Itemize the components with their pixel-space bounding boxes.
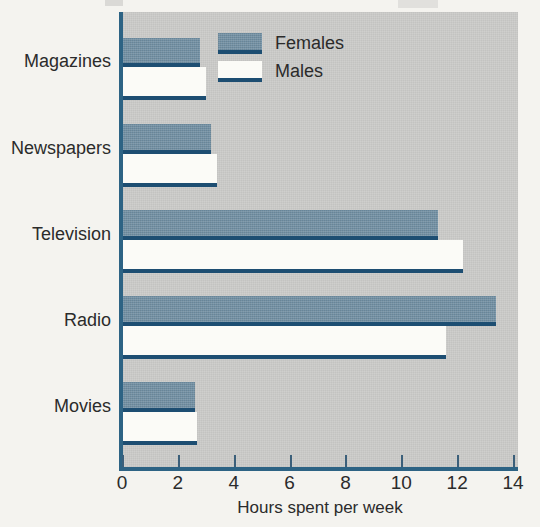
category-label-magazines: Magazines: [1, 52, 119, 70]
x-axis-tick-label: 8: [325, 472, 365, 494]
x-axis-tick: [290, 455, 292, 467]
legend-label-males: Males: [275, 60, 323, 82]
category-label-movies: Movies: [1, 397, 119, 415]
category-label-newspapers: Newspapers: [1, 139, 119, 157]
x-axis-tick-label: 6: [270, 472, 310, 494]
x-axis-tick: [122, 455, 124, 467]
legend-item-males: Males: [218, 61, 388, 88]
legend-item-females: Females: [218, 33, 388, 60]
category-label-radio: Radio: [1, 311, 119, 329]
x-axis-title: Hours spent per week: [122, 498, 518, 518]
legend: FemalesMales: [218, 33, 388, 95]
x-axis-tick-label: 12: [437, 472, 477, 494]
x-axis-tick: [178, 455, 180, 467]
category-labels: MagazinesNewspapersTelevisionRadioMovies: [0, 0, 119, 527]
legend-label-females: Females: [275, 32, 344, 54]
x-axis-tick-label: 14: [493, 472, 533, 494]
x-axis-tick-label: 2: [158, 472, 198, 494]
category-label-television: Television: [1, 225, 119, 243]
legend-swatch-male: [218, 61, 262, 82]
x-axis-tick-label: 4: [214, 472, 254, 494]
x-axis-tick: [234, 455, 236, 467]
legend-swatch-female: [218, 33, 262, 54]
x-axis-tick: [513, 455, 515, 467]
x-axis-tick-label: 10: [381, 472, 421, 494]
x-axis-tick: [345, 455, 347, 467]
x-axis-tick: [401, 455, 403, 467]
x-axis-tick: [457, 455, 459, 467]
chart-page: 02468101214 Hours spent per week Magazin…: [0, 0, 540, 527]
